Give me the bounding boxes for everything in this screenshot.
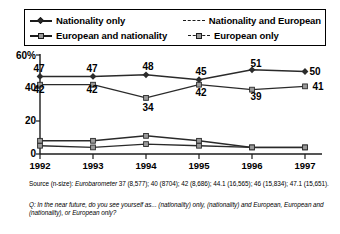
legend-label: Nationality only (56, 16, 125, 26)
source-publication: Eurobarometer (75, 180, 117, 187)
data-point-marker (91, 138, 96, 143)
series-line (40, 70, 305, 80)
question-note: Q: In the near future, do you see yourse… (29, 201, 335, 218)
chart-legend: Nationality only Nationality and Europea… (24, 9, 326, 46)
data-point-marker (303, 145, 308, 150)
data-label: 34 (142, 102, 154, 113)
data-point-marker (302, 68, 309, 75)
line-dashed-marker-icon (188, 31, 210, 40)
series-line (40, 136, 305, 148)
chart-series-layer (37, 66, 309, 149)
data-label: 45 (195, 66, 207, 77)
data-point-marker (144, 96, 149, 101)
legend-label: Nationality and European (209, 16, 321, 26)
series-line (40, 85, 305, 98)
plot-area: 60% 40 20 0 1992 1993 1994 1995 1996 199… (0, 50, 340, 178)
line-dashed-icon (183, 16, 205, 25)
data-label: 41 (312, 81, 324, 92)
legend-label: European only (214, 31, 279, 41)
data-label: 42 (86, 84, 98, 95)
chart-axes (36, 54, 322, 159)
data-label: 42 (195, 87, 207, 98)
legend-item-european-only: European only (188, 31, 279, 41)
data-label: 42 (33, 84, 45, 95)
data-label: 47 (86, 63, 98, 74)
line-chart-svg: 474748455150424234423941 (0, 50, 340, 178)
legend-item-european-and-nationality: European and nationality (30, 31, 188, 41)
source-details: 37 (8,577); 40 (8704); 42 (8,686); 44.1 … (117, 180, 329, 187)
data-point-marker (197, 143, 202, 148)
data-label: 51 (250, 58, 262, 69)
data-point-marker (38, 143, 43, 148)
data-point-marker (144, 133, 149, 138)
data-label: 48 (142, 61, 154, 72)
source-prefix: Source (n-size): (29, 180, 75, 187)
data-point-marker (250, 145, 255, 150)
data-label: 47 (33, 63, 45, 74)
line-marker-diamond-icon (30, 16, 52, 25)
line-marker-square-icon (30, 31, 52, 40)
data-point-marker (38, 138, 43, 143)
legend-label: European and nationality (56, 31, 167, 41)
source-note: Source (n-size): Eurobarometer 37 (8,577… (29, 180, 335, 188)
legend-row-1: Nationality only Nationality and Europea… (30, 13, 321, 28)
data-label: 50 (309, 66, 321, 77)
series-line (40, 144, 305, 147)
data-point-marker (143, 71, 150, 78)
chart-screenshot: Nationality only Nationality and Europea… (0, 0, 340, 234)
data-point-marker (91, 145, 96, 150)
legend-item-nationality-and-european: Nationality and European (183, 16, 321, 26)
data-point-marker (144, 142, 149, 147)
data-label: 39 (250, 91, 262, 102)
data-point-marker (303, 84, 308, 89)
chart-data-labels: 474748455150424234423941 (33, 58, 324, 113)
legend-row-2: European and nationality European only (30, 28, 321, 43)
legend-item-nationality-only: Nationality only (30, 16, 183, 26)
data-point-marker (197, 138, 202, 143)
